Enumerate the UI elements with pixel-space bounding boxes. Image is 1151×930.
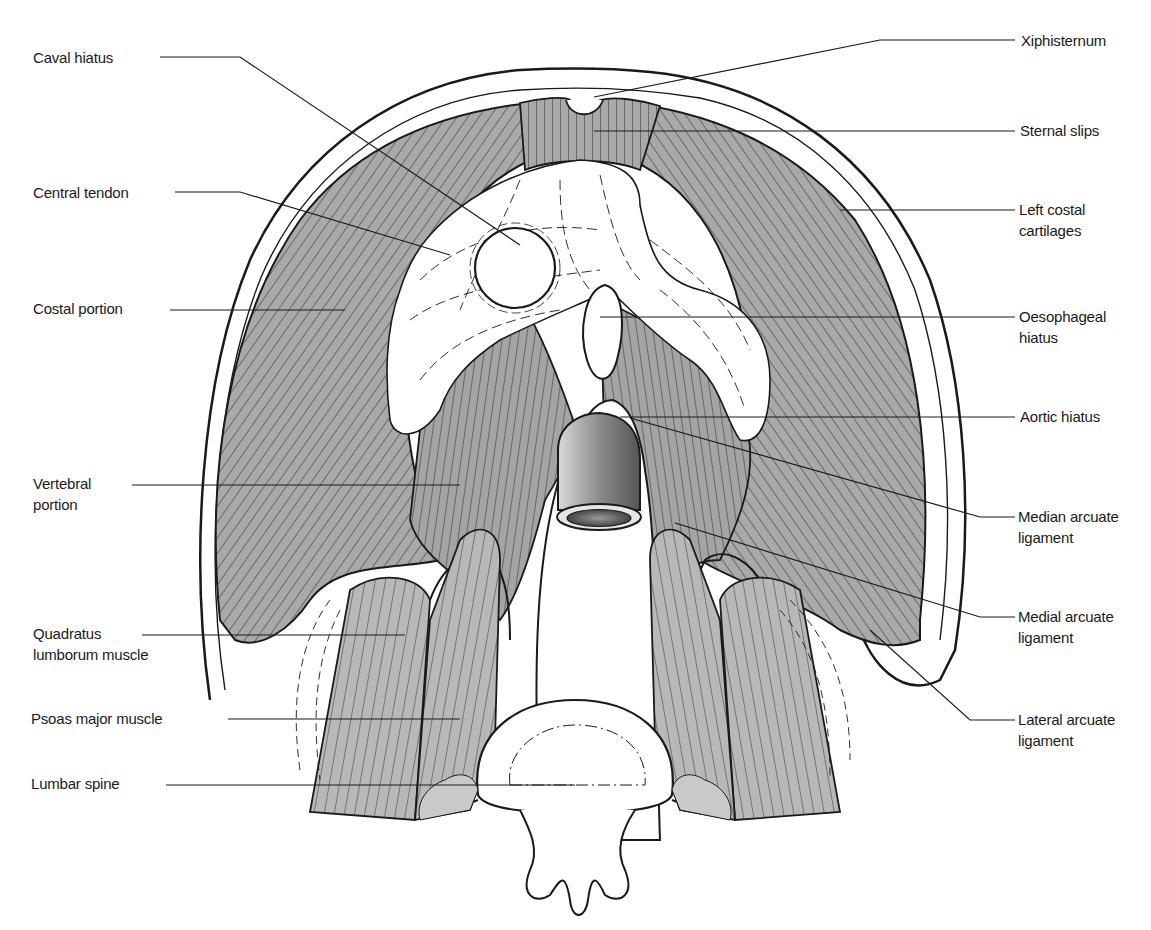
label-aortic-hiatus: Aortic hiatus <box>1020 406 1100 427</box>
oesophageal-hiatus <box>583 285 622 379</box>
label-median-arcuate-ligament: Median arcuate ligament <box>1018 506 1119 548</box>
label-oesophageal-hiatus: Oesophageal hiatus <box>1019 306 1106 348</box>
label-left-costal-cartilages: Left costal cartilages <box>1019 199 1085 241</box>
label-caval-hiatus: Caval hiatus <box>33 47 113 68</box>
label-quadratus-lumborum: Quadratus lumborum muscle <box>33 623 148 665</box>
aorta <box>557 413 641 530</box>
label-costal-portion: Costal portion <box>33 298 123 319</box>
label-medial-arcuate-ligament: Medial arcuate ligament <box>1018 606 1114 648</box>
label-sternal-slips: Sternal slips <box>1020 120 1099 141</box>
diaphragm-diagram <box>0 0 1151 930</box>
label-lateral-arcuate-ligament: Lateral arcuate ligament <box>1018 709 1115 751</box>
label-psoas-major: Psoas major muscle <box>31 708 162 729</box>
label-xiphisternum: Xiphisternum <box>1021 30 1106 51</box>
label-lumbar-spine: Lumbar spine <box>31 773 120 794</box>
label-central-tendon: Central tendon <box>33 182 129 203</box>
label-vertebral-portion: Vertebral portion <box>33 473 91 515</box>
caval-hiatus <box>475 228 555 308</box>
